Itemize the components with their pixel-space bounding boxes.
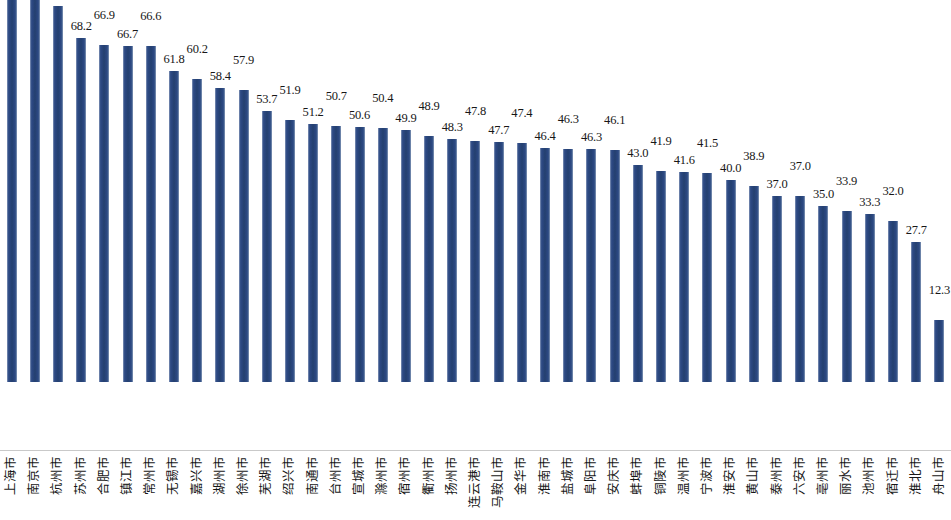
bar-value-label: 58.4	[210, 69, 231, 84]
category-label-text: 宁波市	[702, 456, 713, 495]
category-label: 铜陵市	[649, 456, 672, 520]
bar	[239, 90, 248, 382]
category-label-text: 舟山市	[934, 456, 945, 495]
bar-value-label: 48.3	[442, 120, 463, 135]
category-label-text: 盐城市	[563, 456, 574, 495]
bar-value-label: 38.9	[743, 149, 764, 164]
bar	[842, 211, 851, 382]
bar	[517, 143, 526, 382]
bar-group: 46.3	[557, 0, 580, 382]
bar	[7, 0, 16, 382]
category-label: 湖州市	[209, 456, 232, 520]
category-label-text: 滁州市	[377, 456, 388, 495]
category-label-text: 嘉兴市	[192, 456, 203, 495]
category-label-text: 铜陵市	[656, 456, 667, 495]
category-label: 阜阳市	[580, 456, 603, 520]
category-label-text: 宣城市	[354, 456, 365, 495]
bar-group: 43.0	[626, 0, 649, 382]
category-label-text: 黄山市	[748, 456, 759, 495]
bar	[471, 141, 480, 382]
category-label: 南京市	[23, 456, 46, 520]
bar-value-label: 47.7	[488, 123, 509, 138]
bar-group: 58.4	[209, 0, 232, 382]
bar-value-label: 47.8	[465, 104, 486, 119]
bar	[610, 150, 619, 382]
bar-group: 38.9	[742, 0, 765, 382]
category-label: 亳州市	[812, 456, 835, 520]
bar-value-label: 50.4	[372, 91, 393, 106]
category-label-text: 宿迁市	[888, 456, 899, 495]
bar	[541, 148, 550, 382]
bar-value-label: 41.6	[674, 153, 695, 168]
bar-value-label: 50.6	[349, 108, 370, 123]
category-label: 宣城市	[348, 456, 371, 520]
bar-value-label: 49.9	[395, 111, 416, 126]
bar-group: 47.7	[487, 0, 510, 382]
bar	[564, 149, 573, 382]
category-label: 淮北市	[905, 456, 928, 520]
bar-value-label: 27.7	[906, 223, 927, 238]
category-label-text: 芜湖市	[261, 456, 272, 495]
bar-group: 46.3	[580, 0, 603, 382]
category-label-text: 六安市	[795, 456, 806, 495]
bar-value-label: 66.7	[117, 27, 138, 42]
category-label: 上海市	[0, 456, 23, 520]
category-label-text: 淮北市	[911, 456, 922, 495]
category-label-text: 衢州市	[424, 456, 435, 495]
category-label: 台州市	[325, 456, 348, 520]
category-label: 宁波市	[696, 456, 719, 520]
category-label: 淮安市	[719, 456, 742, 520]
bar	[494, 142, 503, 382]
bar-group: 50.4	[371, 0, 394, 382]
bar	[935, 320, 944, 382]
bar-group: 51.9	[278, 0, 301, 382]
bar-value-label: 12.3	[929, 283, 950, 298]
bar-group: 50.6	[348, 0, 371, 382]
bar	[657, 171, 666, 382]
bar-group: 86.5	[0, 0, 23, 382]
bar-group: 68.2	[70, 0, 93, 382]
bar-group: 46.1	[603, 0, 626, 382]
bar	[448, 139, 457, 382]
category-label: 池州市	[858, 456, 881, 520]
category-label: 淮南市	[533, 456, 556, 520]
bar-value-label: 33.9	[836, 174, 857, 189]
category-label-text: 杭州市	[52, 456, 63, 495]
bar-value-label: 61.8	[163, 52, 184, 67]
bar-chart: 86.585.374.668.266.966.766.661.860.258.4…	[0, 0, 951, 520]
bar	[587, 149, 596, 382]
bar	[123, 46, 132, 382]
category-label-text: 宿州市	[400, 456, 411, 495]
category-label-text: 泰州市	[772, 456, 783, 495]
category-label: 蚌埠市	[626, 456, 649, 520]
bar-value-label: 37.0	[766, 177, 787, 192]
bar-group: 66.9	[93, 0, 116, 382]
bar-value-label: 60.2	[187, 42, 208, 57]
category-label: 合肥市	[93, 456, 116, 520]
bar	[262, 111, 271, 382]
bar-value-label: 46.4	[535, 129, 556, 144]
category-label-text: 淮南市	[540, 456, 551, 495]
category-label: 南通市	[302, 456, 325, 520]
category-label: 常州市	[139, 456, 162, 520]
category-label: 六安市	[789, 456, 812, 520]
bar-group: 37.0	[789, 0, 812, 382]
bar-value-label: 37.0	[790, 159, 811, 174]
bar	[889, 221, 898, 382]
category-label-text: 南通市	[308, 456, 319, 495]
bar	[703, 173, 712, 382]
category-label-text: 无锡市	[168, 456, 179, 495]
category-label-text: 合肥市	[99, 456, 110, 495]
bar-value-label: 68.2	[71, 19, 92, 34]
bar-group: 48.9	[418, 0, 441, 382]
category-label: 芜湖市	[255, 456, 278, 520]
category-label-text: 淮安市	[725, 456, 736, 495]
bar	[633, 165, 642, 382]
category-label-text: 连云港市	[470, 456, 481, 508]
bar	[77, 38, 86, 382]
bar	[796, 196, 805, 382]
bar	[216, 88, 225, 382]
bar-value-label: 51.9	[279, 83, 300, 98]
bar-value-label: 33.3	[859, 195, 880, 210]
category-label: 嘉兴市	[186, 456, 209, 520]
